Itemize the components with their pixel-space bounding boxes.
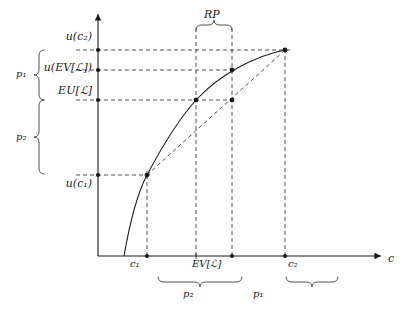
brace-rp-top-path: [196, 20, 232, 30]
ev-axis-label: EV[ℒ]: [192, 258, 221, 269]
brace-p1-bottom-label: p₁: [253, 288, 263, 299]
brace-p2-left-path: [34, 100, 44, 174]
chord-line: [147, 50, 285, 175]
c2-label: c₂: [288, 258, 298, 269]
utility-diagram: u(c₂) u(EV[ℒ]) EU[ℒ] u(c₁) c₁ EV[ℒ] c₂ c…: [0, 0, 405, 317]
c1-label: c₁: [130, 258, 140, 269]
brace-rp-top-label: RP: [204, 8, 220, 21]
brace-p2-bottom-path: [158, 277, 242, 287]
u-c1-label: u(c₁): [66, 177, 92, 190]
brace-p1-bottom-path: [286, 277, 338, 287]
u-c2-label: u(c₂): [66, 30, 92, 43]
u-ev-label: u(EV[ℒ]): [44, 61, 92, 74]
horizontal-dashed-lines: [76, 50, 290, 175]
vertical-dashed-lines: [147, 26, 285, 256]
brace-p1-left-label: p₁: [16, 68, 26, 79]
brace-p2-left-label: p₂: [16, 131, 26, 142]
eu-label: EU[ℒ]: [58, 84, 92, 97]
consumption-axis-label: c: [388, 252, 394, 265]
utility-curve: [124, 50, 285, 256]
brace-p2-bottom-label: p₂: [183, 288, 193, 299]
diagram-canvas: [0, 0, 405, 317]
brace-p1-left-path: [34, 50, 44, 100]
